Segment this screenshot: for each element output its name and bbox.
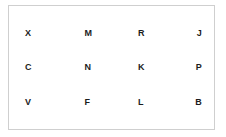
grid-cell[interactable]: X	[9, 29, 66, 38]
grid-cell[interactable]: P	[175, 63, 214, 72]
letter-grid: X M R J C N K P V F L B	[9, 6, 214, 129]
grid-cell[interactable]: N	[66, 63, 120, 72]
grid-cell[interactable]: R	[121, 29, 175, 38]
grid-cell[interactable]: K	[121, 63, 175, 72]
letter-panel: X M R J C N K P V F L B	[8, 5, 215, 130]
grid-cell[interactable]: M	[66, 29, 120, 38]
screen: X M R J C N K P V F L B	[0, 0, 226, 137]
grid-row: X M R J	[9, 26, 214, 40]
grid-cell[interactable]: B	[175, 98, 214, 107]
grid-cell[interactable]: F	[66, 98, 120, 107]
grid-row: V F L B	[9, 96, 214, 110]
grid-cell[interactable]: L	[121, 98, 175, 107]
grid-cell[interactable]: J	[175, 29, 214, 38]
grid-cell[interactable]: V	[9, 98, 66, 107]
grid-cell[interactable]: C	[9, 63, 66, 72]
grid-row: C N K P	[9, 61, 214, 75]
